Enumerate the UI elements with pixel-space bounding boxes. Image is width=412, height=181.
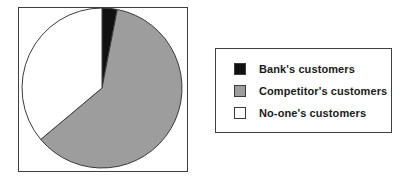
legend-label-banks-customers: Bank's customers	[259, 63, 355, 75]
legend-item-competitors-customers: Competitor's customers	[234, 80, 391, 102]
pie-chart-panel	[18, 7, 188, 172]
pie-chart-svg	[18, 7, 190, 174]
legend-label-competitors-customers: Competitor's customers	[259, 85, 387, 97]
chart-legend: Bank's customers Competitor's customers …	[215, 48, 392, 133]
legend-label-no-ones-customers: No-one's customers	[259, 107, 366, 119]
legend-item-banks-customers: Bank's customers	[234, 58, 391, 80]
legend-swatch-icon-banks-customers	[234, 63, 246, 75]
pie-slices-group	[22, 8, 182, 168]
legend-swatch-icon-no-ones-customers	[234, 107, 246, 119]
legend-item-no-ones-customers: No-one's customers	[234, 102, 391, 124]
legend-swatch-icon-competitors-customers	[234, 85, 246, 97]
